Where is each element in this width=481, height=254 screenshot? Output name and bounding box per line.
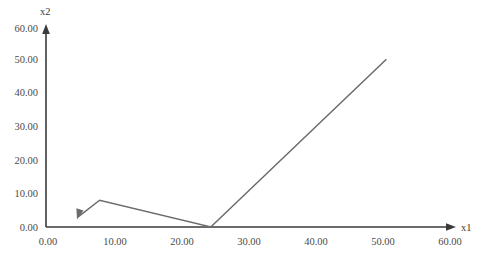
y-tick-label: 50.00 <box>14 54 38 65</box>
x-tick-label: 30.00 <box>237 236 261 247</box>
x-axis-title: x1 <box>461 222 472 233</box>
y-tick-label: 60.00 <box>14 23 38 34</box>
x-tick-label: 50.00 <box>371 236 395 247</box>
x-tick-label: 40.00 <box>304 236 328 247</box>
data-series-path <box>78 59 386 227</box>
y-tick-label: 40.00 <box>14 87 38 98</box>
y-axis-title: x2 <box>40 6 51 17</box>
y-tick-label: 0.00 <box>20 222 38 233</box>
x-tick-label: 60.00 <box>438 236 462 247</box>
x-tick-label: 20.00 <box>170 236 194 247</box>
y-axis-arrowhead <box>42 24 50 34</box>
x-axis-arrowhead <box>446 223 456 231</box>
y-tick-label: 20.00 <box>14 155 38 166</box>
chart-canvas: 0.00 10.00 20.00 30.00 40.00 50.00 60.00… <box>0 0 481 254</box>
y-tick-label: 30.00 <box>14 121 38 132</box>
x-tick-label: 0.00 <box>39 236 57 247</box>
x-tick-label: 10.00 <box>103 236 127 247</box>
line-chart: 0.00 10.00 20.00 30.00 40.00 50.00 60.00… <box>0 0 481 254</box>
y-tick-label: 10.00 <box>14 188 38 199</box>
